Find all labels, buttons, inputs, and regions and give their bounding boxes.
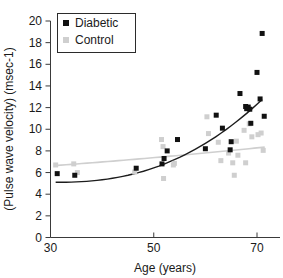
- y-tick-label-20: 20: [29, 14, 43, 28]
- control-point: [161, 176, 166, 181]
- diabetic-point: [55, 171, 60, 176]
- diabetic-point: [262, 114, 267, 119]
- y-tick-label-18: 18: [29, 36, 43, 50]
- x-tick-label-30: 30: [44, 241, 58, 255]
- diabetic-point: [228, 147, 233, 152]
- legend-swatch-diabetic: [63, 20, 69, 26]
- y-tick-label-2: 2: [35, 209, 42, 223]
- diabetic-point: [160, 161, 165, 166]
- diabetic-point: [258, 96, 263, 101]
- diabetic-point: [248, 121, 253, 126]
- y-tick-label-16: 16: [29, 57, 43, 71]
- pulse-wave-velocity-scatter-chart: 02468101214161820 305070 Diabetic Contro…: [0, 0, 283, 278]
- chart-canvas: 02468101214161820 305070 Diabetic Contro…: [0, 0, 283, 278]
- diabetic-point: [220, 126, 225, 131]
- control-point: [206, 131, 211, 136]
- legend-label-diabetic: Diabetic: [75, 16, 118, 30]
- y-tick-label-0: 0: [35, 231, 42, 245]
- diabetic-point: [72, 173, 77, 178]
- y-tick-label-12: 12: [29, 101, 43, 115]
- diabetic-point: [162, 156, 167, 161]
- x-tick-label-50: 50: [147, 241, 161, 255]
- control-point: [261, 148, 266, 153]
- y-tick-label-14: 14: [29, 79, 43, 93]
- control-point: [53, 162, 58, 167]
- chart-legend: Diabetic Control: [58, 14, 136, 53]
- x-axis-title: Age (years): [134, 261, 196, 275]
- control-point: [159, 137, 164, 142]
- control-point: [243, 160, 248, 165]
- diabetic-point: [255, 70, 260, 75]
- y-axis-title: (Pulse wave velocity) (msec-1): [2, 47, 16, 210]
- diabetic-point: [237, 91, 242, 96]
- legend-swatch-control: [63, 37, 69, 43]
- control-point: [230, 160, 235, 165]
- control-point: [259, 131, 264, 136]
- diabetic-point: [203, 146, 208, 151]
- y-tick-label-6: 6: [35, 166, 42, 180]
- control-point: [216, 140, 221, 145]
- control-point: [235, 153, 240, 158]
- diabetic-point: [214, 113, 219, 118]
- chart-background: [0, 0, 283, 278]
- control-point: [249, 134, 254, 139]
- y-tick-label-4: 4: [35, 187, 42, 201]
- control-point: [242, 128, 247, 133]
- x-tick-label-70: 70: [250, 241, 264, 255]
- control-point: [172, 161, 177, 166]
- diabetic-point: [165, 148, 170, 153]
- diabetic-point: [134, 166, 139, 171]
- control-point: [232, 173, 237, 178]
- control-point: [71, 161, 76, 166]
- control-point: [161, 144, 166, 149]
- control-point: [204, 114, 209, 119]
- diabetic-point: [175, 137, 180, 142]
- control-point: [234, 139, 239, 144]
- control-point: [218, 158, 223, 163]
- diabetic-point: [247, 107, 252, 112]
- diabetic-point: [229, 139, 234, 144]
- y-tick-label-8: 8: [35, 144, 42, 158]
- diabetic-point: [260, 31, 265, 36]
- y-tick-label-10: 10: [29, 122, 43, 136]
- legend-label-control: Control: [75, 33, 114, 47]
